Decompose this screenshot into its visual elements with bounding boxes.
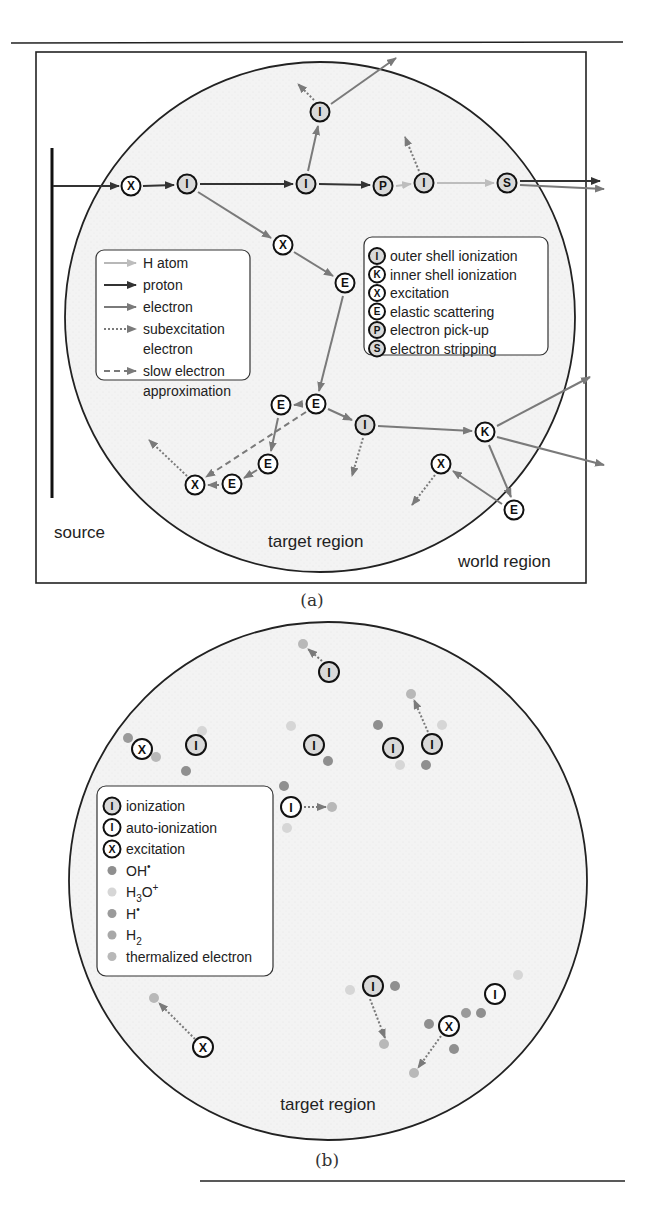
legend-process-label: excitation — [390, 285, 449, 301]
legend-label: slow electron — [143, 363, 225, 379]
caption-b: (b) — [315, 1150, 339, 1170]
panel-b: IXIIIIIIIXX IionizationIauto-ionizationX… — [69, 622, 587, 1140]
target-region-label-b: target region — [280, 1095, 375, 1114]
node-e-icon: E — [307, 395, 326, 414]
node-x-icon: X — [432, 455, 451, 474]
target-region-label-a: target region — [268, 532, 363, 551]
legend-processes: Iouter shell ionizationKinner shell ioni… — [364, 237, 548, 357]
node-x-icon: X — [193, 1037, 213, 1057]
node-symbol: E — [510, 503, 518, 517]
node-symbol: X — [437, 457, 445, 471]
node-symbol: I — [289, 801, 292, 815]
node-symbol: I — [422, 176, 425, 190]
legend-i-icon: I — [104, 819, 121, 836]
species-dot-icon — [108, 888, 117, 897]
legend-process-label: outer shell ionization — [390, 248, 518, 264]
node-i-icon: I — [297, 175, 316, 194]
node-symbol: I — [493, 988, 496, 1002]
node-x-icon: X — [186, 476, 205, 495]
node-x-icon: X — [122, 177, 141, 196]
node-symbol: I — [185, 177, 188, 191]
legend-label: subexcitation — [143, 321, 225, 337]
node-symbol: X — [138, 743, 147, 757]
node-k-icon: K — [476, 423, 495, 442]
node-symbol: I — [363, 418, 366, 432]
node-i-icon: I — [485, 984, 505, 1004]
node-symbol: X — [374, 288, 381, 299]
node-symbol: E — [277, 398, 285, 412]
legend-k-icon: K — [369, 267, 385, 283]
node-symbol: X — [279, 238, 287, 252]
node-symbol: I — [304, 177, 307, 191]
legend-process-label: electron stripping — [390, 341, 497, 357]
node-symbol: I — [391, 742, 394, 756]
node-symbol: I — [111, 821, 114, 833]
legend-b: IionizationIauto-ionizationXexcitationOH… — [97, 786, 273, 976]
node-symbol: I — [430, 738, 433, 752]
node-i-icon: I — [415, 174, 434, 193]
node-x-icon: X — [274, 236, 293, 255]
figure-canvas: XIIIPISXEEEIKEEXXE H atomprotonelectrons… — [0, 0, 649, 1210]
legend-e-icon: E — [369, 304, 385, 320]
node-symbol: P — [374, 325, 381, 336]
node-i-icon: I — [363, 976, 383, 996]
legend-label: H atom — [143, 255, 188, 271]
species-dot-icon — [108, 952, 117, 961]
species-dot-icon — [108, 866, 117, 875]
node-e-icon: E — [505, 501, 524, 520]
legend-b-label: excitation — [126, 841, 185, 857]
node-symbol: I — [371, 980, 374, 994]
node-symbol: P — [379, 179, 387, 193]
node-symbol: I — [194, 739, 197, 753]
top-rule — [11, 42, 623, 43]
node-i-icon: I — [383, 738, 403, 758]
node-symbol: I — [312, 739, 315, 753]
node-symbol: S — [503, 176, 511, 190]
world-region-label: world region — [457, 552, 551, 571]
node-x-icon: X — [439, 1016, 459, 1036]
node-i-icon: I — [186, 735, 206, 755]
node-symbol: E — [312, 397, 320, 411]
node-symbol: X — [199, 1041, 208, 1055]
node-symbol: X — [127, 179, 135, 193]
node-i-icon: I — [304, 735, 324, 755]
legend-x-icon: X — [369, 285, 385, 301]
legend-b-label: thermalized electron — [126, 949, 252, 965]
node-p-icon: P — [374, 177, 393, 196]
legend-particles: H atomprotonelectronsubexcitationelectro… — [96, 250, 250, 399]
legend-b-box — [97, 786, 273, 976]
legend-process-label: electron pick-up — [390, 322, 489, 338]
legend-i-icon: I — [369, 248, 385, 264]
node-e-icon: E — [259, 455, 278, 474]
node-s-icon: S — [498, 174, 517, 193]
node-e-icon: E — [223, 475, 242, 494]
legend-p-icon: P — [369, 322, 385, 338]
node-symbol: X — [191, 478, 199, 492]
node-symbol: S — [374, 343, 381, 354]
legend-b-label: ionization — [126, 798, 185, 814]
node-x-icon: X — [132, 739, 152, 759]
node-i-icon: I — [422, 734, 442, 754]
caption-a: (a) — [300, 590, 323, 610]
node-symbol: I — [327, 666, 330, 680]
node-i-icon: I — [281, 797, 301, 817]
node-i-icon: I — [356, 416, 375, 435]
panel-a: XIIIPISXEEEIKEEXXE H atomprotonelectrons… — [36, 52, 604, 583]
node-symbol: X — [108, 843, 115, 855]
node-i-icon: I — [311, 103, 330, 122]
node-i-icon: I — [178, 175, 197, 194]
legend-process-label: elastic scattering — [390, 304, 494, 320]
legend-b-label: auto-ionization — [126, 820, 217, 836]
node-e-icon: E — [272, 396, 291, 415]
node-symbol: K — [373, 269, 381, 280]
node-symbol: E — [374, 306, 381, 317]
node-symbol: E — [264, 457, 272, 471]
node-symbol: E — [341, 276, 349, 290]
species-dot-icon — [108, 931, 117, 940]
node-i-icon: I — [319, 662, 339, 682]
legend-label: proton — [143, 277, 183, 293]
source-label: source — [54, 523, 105, 542]
legend-process-label: inner shell ionization — [390, 267, 517, 283]
legend-label: electron — [143, 299, 193, 315]
legend-x-icon: X — [104, 841, 121, 858]
